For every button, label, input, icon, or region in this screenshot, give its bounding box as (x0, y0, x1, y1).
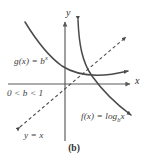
f-function-base-text: f(x) = log (81, 111, 117, 121)
figure-container: y x g(x) = bx f(x) = logbx 0 < b < 1 y =… (0, 0, 148, 163)
figure-caption: (b) (0, 143, 148, 153)
identity-line-label: y = x (24, 131, 43, 140)
f-function-argument: x (121, 111, 125, 121)
g-function-label: g(x) = bx (14, 55, 48, 66)
graph-canvas (0, 0, 148, 163)
curve-f-logarithmic (78, 20, 131, 115)
base-condition-label: 0 < b < 1 (7, 89, 43, 98)
f-function-label: f(x) = logbx (81, 112, 125, 123)
y-axis-label: y (66, 8, 71, 18)
g-function-exponent: x (45, 54, 48, 61)
g-function-base-text: g(x) = b (14, 56, 45, 66)
x-axis-label: x (135, 76, 140, 86)
curve-g-exponential (25, 22, 128, 75)
